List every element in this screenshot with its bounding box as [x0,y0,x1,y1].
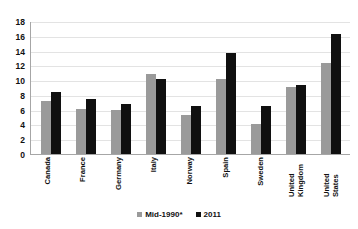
bar [261,106,271,154]
x-axis-tick-label: Canada [43,157,52,184]
bar [41,101,51,154]
x-axis-tick-label: Spain [221,157,230,178]
bar-group [103,22,138,154]
bar [226,53,236,154]
bar [321,63,331,154]
legend-label: 2011 [204,210,221,219]
bar [296,85,306,154]
x-axis-tick: Italy [137,156,173,204]
y-axis: 024681012141618 [0,22,28,155]
bar-group [243,22,278,154]
x-axis-tick: Canada [30,156,66,204]
x-axis-tick-label: Norway [186,157,195,184]
bars-layer [31,22,350,154]
bar-group [138,22,173,154]
plot-area [30,22,350,155]
x-axis-tick: France [66,156,102,204]
bar [146,74,156,154]
bar [51,92,61,154]
x-axis-tick-label: Sweden [257,157,266,186]
y-axis-tick-label: 0 [20,150,25,160]
y-axis-tick-label: 18 [16,17,25,27]
bar [121,104,131,154]
x-axis: CanadaFranceGermanyItalyNorwaySpainSwede… [30,156,350,204]
bar [181,115,191,154]
bar [111,110,121,154]
bar [331,34,341,154]
x-axis-tick-label: Italy [150,157,159,172]
legend-label: Mid-1990* [145,210,182,219]
y-axis-tick-label: 16 [16,32,25,42]
x-axis-tick: United States [315,156,351,204]
x-axis-tick-label: Germany [115,157,124,190]
legend-item[interactable]: 2011 [196,210,221,219]
y-axis-tick-label: 4 [20,120,25,130]
bar-group [173,22,208,154]
x-axis-tick: Germany [101,156,137,204]
x-axis-tick: Sweden [243,156,279,204]
bar [86,99,96,154]
bar [286,87,296,154]
bar-chart: 024681012141618 CanadaFranceGermanyItaly… [0,0,358,229]
x-axis-tick: United Kingdom [279,156,315,204]
x-axis-tick-label: United States [324,157,341,197]
y-axis-tick-label: 6 [20,106,25,116]
x-axis-tick-label: France [79,157,88,182]
y-axis-tick-label: 12 [16,61,25,71]
bar-group [278,22,313,154]
gray-swatch-icon [137,212,142,217]
bar-group [313,22,348,154]
black-swatch-icon [196,212,201,217]
y-axis-tick-label: 14 [16,47,25,57]
bar-group [208,22,243,154]
y-axis-tick-label: 10 [16,76,25,86]
x-axis-tick: Spain [208,156,244,204]
y-axis-tick-label: 8 [20,91,25,101]
bar-group [33,22,68,154]
legend-item[interactable]: Mid-1990* [137,210,182,219]
x-axis-tick-label: United Kingdom [288,157,305,197]
y-axis-tick-label: 2 [20,135,25,145]
bar [156,79,166,154]
x-axis-tick: Norway [172,156,208,204]
bar [76,109,86,154]
bar [191,106,201,154]
bar [251,124,261,154]
bar [216,79,226,154]
chart-legend: Mid-1990*2011 [0,207,358,221]
bar-group [68,22,103,154]
